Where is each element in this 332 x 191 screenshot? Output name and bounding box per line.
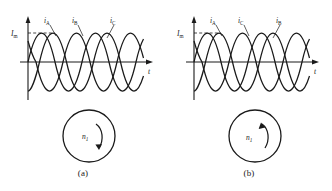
y-axis-peak-label-a: Im [10,29,18,39]
label-leaders-b [216,25,280,38]
subfigure-b: Im t iA iC iB [166,0,332,191]
curve-label-a-1: iB [72,16,78,26]
curve-label-b-1: iC [238,16,244,26]
curve-label-b-2: iB [276,16,282,26]
curve-label-b-0: iA [210,16,216,26]
x-axis-label-a: t [148,67,151,76]
plot-b: Im t iA iC iB [166,0,332,191]
figure-container: Im t iA iB iC [0,0,332,191]
rotor-circle-b: n1 [229,110,281,162]
x-axis-label-b: t [314,67,317,76]
caption-a: (a) [0,168,166,178]
y-axis-peak-label-b: Im [176,29,184,39]
curve-label-a-0: iA [44,16,50,26]
curve-label-a-2: iC [110,16,116,26]
subfigure-a: Im t iA iB iC [0,0,166,191]
rotor-speed-label-a: n1 [82,132,89,142]
plot-a: Im t iA iB iC [0,0,166,191]
label-leaders-a [50,25,114,38]
caption-b: (b) [166,168,332,178]
rotor-circle-a: n1 [63,110,115,162]
rotor-speed-label-b: n1 [246,133,253,143]
